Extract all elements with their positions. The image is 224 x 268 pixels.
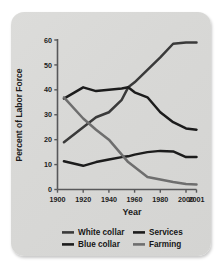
y-tick-label: 30 <box>44 110 52 119</box>
x-axis-title: Year <box>122 207 142 217</box>
x-axis <box>58 190 197 193</box>
x-tick-label: 1940 <box>101 195 117 204</box>
x-tick-label: 1960 <box>127 195 143 204</box>
y-axis-title: Percent of Labor Force <box>14 68 24 161</box>
y-tick-label: 20 <box>44 135 52 144</box>
legend-label: Blue collar <box>78 240 121 249</box>
y-axis <box>54 39 57 190</box>
x-tick-label: 1980 <box>152 195 168 204</box>
line-chart: 0102030405060 19001920194019601980200020… <box>0 0 224 268</box>
x-tick-labels: 1900192019401960198020002001 <box>50 195 205 204</box>
y-tick-label: 10 <box>44 160 52 169</box>
y-tick-labels: 0102030405060 <box>44 36 52 195</box>
legend-label: Farming <box>149 240 181 249</box>
y-tick-label: 40 <box>44 85 52 94</box>
series-line-blue-collar <box>64 87 197 129</box>
chart-legend: White collarServicesBlue collarFarming <box>62 228 183 249</box>
y-tick-label: 60 <box>44 36 52 45</box>
series-line-farming <box>64 97 197 184</box>
x-tick-label: 1920 <box>75 195 91 204</box>
data-series-group <box>64 42 197 184</box>
x-tick-label: 1900 <box>50 195 66 204</box>
x-tick-label: 2001 <box>189 195 205 204</box>
series-line-white-collar <box>64 42 197 142</box>
legend-label: Services <box>149 228 183 237</box>
y-tick-label: 50 <box>44 61 52 70</box>
y-tick-label: 0 <box>48 185 52 194</box>
legend-label: White collar <box>78 228 125 237</box>
